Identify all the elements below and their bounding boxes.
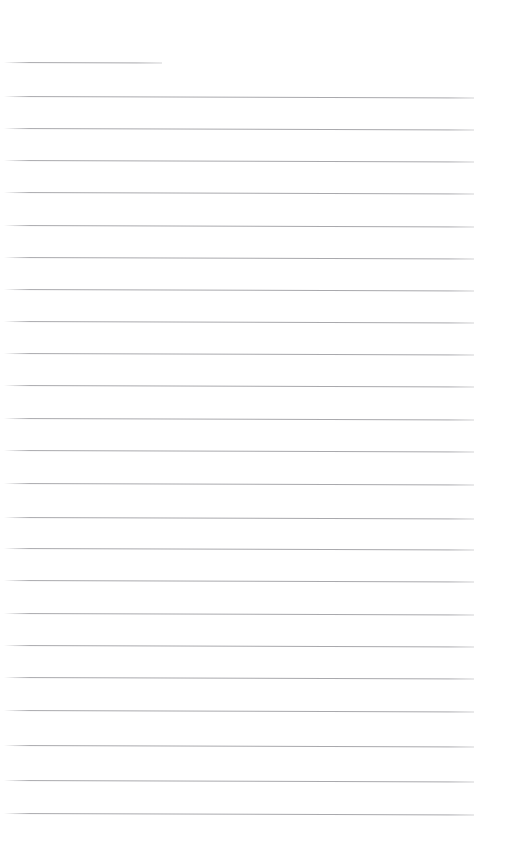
rule-line: [4, 613, 474, 615]
rule-line: [4, 677, 474, 679]
rule-line: [4, 450, 474, 452]
rule-line: [4, 418, 474, 420]
rule-line: [4, 517, 474, 519]
rule-line: [4, 353, 474, 355]
rule-line: [4, 745, 474, 747]
rule-line: [4, 710, 474, 712]
rule-line: [4, 289, 474, 291]
rule-line: [4, 580, 474, 582]
rule-line: [4, 225, 474, 227]
rule-line: [4, 160, 474, 162]
rule-line: [4, 128, 474, 130]
rule-line: [4, 813, 474, 815]
rule-line: [4, 483, 474, 485]
rule-line: [4, 192, 474, 194]
rule-line: [4, 62, 162, 63]
rule-line: [4, 385, 474, 387]
rule-line: [4, 780, 474, 782]
rule-line: [4, 548, 474, 550]
document-page: [0, 0, 505, 850]
rule-line: [4, 257, 474, 259]
rule-line: [4, 645, 474, 647]
ruled-lines-layer: [0, 0, 505, 850]
rule-line: [4, 321, 474, 323]
rule-line: [4, 96, 474, 98]
